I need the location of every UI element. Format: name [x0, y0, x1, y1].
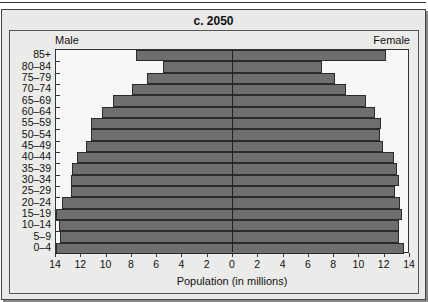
- age-group-label: 20–24: [13, 197, 51, 208]
- male-bar: [113, 95, 233, 106]
- age-group-label: 35–39: [13, 163, 51, 174]
- x-tick-label: 8: [121, 258, 141, 270]
- female-label: Female: [373, 34, 410, 46]
- female-bar: [233, 95, 366, 106]
- x-tick-label: 4: [171, 258, 191, 270]
- female-bar: [233, 84, 346, 95]
- x-tick-label: 10: [96, 258, 116, 270]
- y-tick: [56, 209, 60, 210]
- x-tick-label: 8: [323, 258, 343, 270]
- male-bar: [59, 220, 233, 231]
- female-bar: [233, 243, 404, 254]
- y-tick: [56, 61, 60, 62]
- x-tick-label: 14: [45, 258, 65, 270]
- male-bar: [71, 175, 233, 186]
- y-tick: [56, 152, 60, 153]
- y-tick: [56, 73, 60, 74]
- female-bar: [233, 129, 380, 140]
- male-bar: [132, 84, 233, 95]
- female-bar: [233, 118, 381, 129]
- male-bar: [147, 73, 233, 84]
- female-bar: [233, 186, 395, 197]
- x-tick-label: 6: [146, 258, 166, 270]
- male-bar: [91, 129, 233, 140]
- x-tick-label: 0: [222, 258, 242, 270]
- x-tick-label: 12: [374, 258, 394, 270]
- male-bar: [86, 141, 233, 152]
- male-bar: [60, 231, 233, 242]
- female-bar: [233, 73, 335, 84]
- y-tick: [56, 118, 60, 119]
- age-group-label: 0–4: [13, 242, 51, 253]
- age-group-label: 55–59: [13, 117, 51, 128]
- y-tick: [56, 186, 60, 187]
- y-tick: [56, 107, 60, 108]
- female-bar: [233, 175, 399, 186]
- y-tick: [56, 175, 60, 176]
- female-bar: [233, 61, 322, 72]
- x-tick: [283, 253, 284, 257]
- zero-axis-line: [232, 50, 233, 252]
- x-axis-title: Population (in millions): [55, 275, 409, 287]
- age-group-label: 5–9: [13, 231, 51, 242]
- male-bar: [72, 163, 233, 174]
- age-group-label: 50–54: [13, 129, 51, 140]
- x-tick-label: 2: [197, 258, 217, 270]
- x-tick-label: 12: [70, 258, 90, 270]
- y-tick: [56, 231, 60, 232]
- x-tick: [358, 253, 359, 257]
- male-bar: [77, 152, 233, 163]
- male-bar: [102, 107, 233, 118]
- y-tick: [56, 243, 60, 244]
- x-tick-label: 14: [399, 258, 419, 270]
- x-tick: [55, 253, 56, 257]
- y-tick: [56, 129, 60, 130]
- male-bar: [71, 186, 233, 197]
- male-bar: [163, 61, 233, 72]
- female-bar: [233, 107, 375, 118]
- female-bar: [233, 50, 386, 61]
- age-group-label: 40–44: [13, 151, 51, 162]
- male-bar: [91, 118, 233, 129]
- male-bar: [136, 50, 233, 61]
- female-bar: [233, 231, 399, 242]
- x-tick: [409, 253, 410, 257]
- female-bar: [233, 141, 383, 152]
- top-border-strip: [0, 0, 426, 3]
- y-tick: [56, 84, 60, 85]
- female-bar: [233, 163, 397, 174]
- chart-frame: c. 2050 Male Female 85+80–8475–7970–7465…: [1, 9, 426, 300]
- x-tick: [80, 253, 81, 257]
- female-bar: [233, 197, 400, 208]
- x-tick: [257, 253, 258, 257]
- male-bar: [62, 197, 233, 208]
- female-bar: [233, 220, 399, 231]
- plot-area: [55, 49, 409, 253]
- y-tick: [56, 95, 60, 96]
- x-tick-label: 2: [247, 258, 267, 270]
- x-tick: [156, 253, 157, 257]
- y-tick: [56, 163, 60, 164]
- x-tick: [181, 253, 182, 257]
- x-tick: [308, 253, 309, 257]
- age-group-label: 25–29: [13, 185, 51, 196]
- y-tick: [56, 197, 60, 198]
- y-tick: [56, 141, 60, 142]
- age-group-label: 85+: [13, 49, 51, 60]
- age-group-label: 80–84: [13, 61, 51, 72]
- x-tick: [131, 253, 132, 257]
- male-bar: [56, 209, 233, 220]
- x-tick: [384, 253, 385, 257]
- x-tick: [207, 253, 208, 257]
- chart-title: c. 2050: [2, 14, 425, 28]
- y-tick: [56, 220, 60, 221]
- x-tick-label: 4: [273, 258, 293, 270]
- x-tick: [106, 253, 107, 257]
- x-tick: [232, 253, 233, 257]
- chart-panel: Male Female 85+80–8475–7970–7465–6960–64…: [9, 30, 419, 294]
- female-bar: [233, 152, 394, 163]
- x-tick: [333, 253, 334, 257]
- age-group-label: 10–14: [13, 219, 51, 230]
- age-group-label: 65–69: [13, 95, 51, 106]
- female-bar: [233, 209, 402, 220]
